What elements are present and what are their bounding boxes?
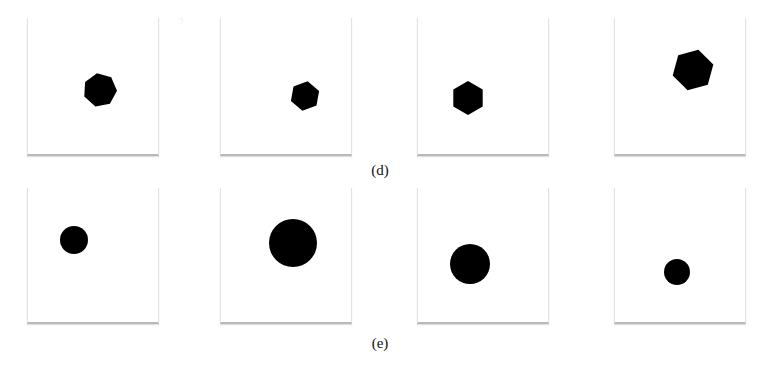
- circle-shape: [664, 259, 690, 285]
- figure-panel: [417, 18, 549, 156]
- circle-shape: [60, 226, 88, 254]
- figure-panel: [614, 188, 746, 324]
- figure-panel: [220, 188, 352, 324]
- figure-panel: [27, 18, 159, 156]
- circle-shape: [269, 219, 317, 267]
- figure-panel: [27, 188, 159, 324]
- figure-panel: [614, 18, 746, 156]
- circle-shape: [450, 244, 490, 284]
- figure-panel: [220, 18, 352, 156]
- subfigure-label: (e): [372, 335, 389, 352]
- hexagon-shape: [291, 81, 319, 111]
- heptagon-shape: [84, 73, 117, 106]
- subfigure-label: (d): [371, 162, 389, 179]
- hexagon-shape: [453, 81, 482, 115]
- figure-panel: [417, 188, 549, 324]
- hexagon-shape: [673, 50, 714, 91]
